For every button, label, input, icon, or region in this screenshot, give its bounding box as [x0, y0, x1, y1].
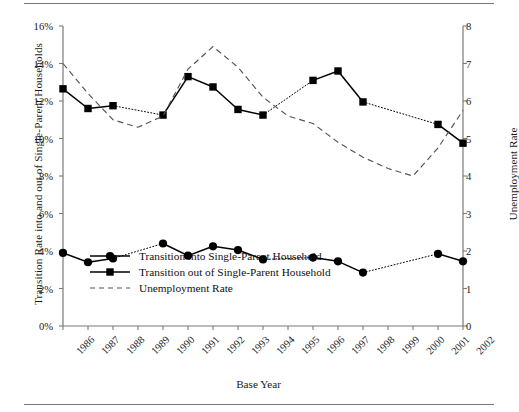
y-axis-left-tick-16%: 16% [34, 21, 53, 32]
top-divider-rule [24, 3, 494, 4]
y-axis-left-tick-14%: 14% [34, 58, 53, 69]
legend-key-dashed-line-icon [88, 280, 132, 296]
y-axis-left-tick-6%: 6% [39, 208, 53, 219]
x-axis-title: Base Year [0, 378, 517, 390]
y-axis-right-tick-0: 0 [466, 321, 471, 332]
legend-item-2[interactable]: Unemployment Rate [88, 280, 331, 296]
legend-label-1: Transition out of Single-Parent Househol… [139, 264, 331, 280]
y-axis-left-tick-2%: 2% [39, 283, 53, 294]
y-axis-left-tick-10%: 10% [34, 133, 53, 144]
legend-item-0[interactable]: Transition into Single-Parent Household [88, 248, 331, 264]
y-axis-left-tick-0%: 0% [39, 321, 53, 332]
y-axis-right-tick-1: 1 [466, 283, 471, 294]
y-axis-left-tick-12%: 12% [34, 96, 53, 107]
chart-legend: Transition into Single-Parent HouseholdT… [88, 248, 331, 296]
y-axis-left-tick-4%: 4% [39, 246, 53, 257]
series-transition-out-of-single-parent-household [59, 67, 466, 147]
y-axis-right-tick-4: 4 [466, 171, 471, 182]
y-axis-left-tick-8%: 8% [39, 171, 53, 182]
series-unemployment-rate [63, 47, 463, 176]
y-axis-right-tick-7: 7 [466, 58, 471, 69]
legend-label-0: Transition into Single-Parent Household [139, 248, 322, 264]
y-axis-right-tick-5: 5 [466, 133, 471, 144]
y-axis-right-tick-6: 6 [466, 96, 471, 107]
legend-key-circle-solid-line-icon [88, 248, 132, 264]
y-axis-right-tick-2: 2 [466, 246, 471, 257]
legend-item-1[interactable]: Transition out of Single-Parent Househol… [88, 264, 331, 280]
y-axis-right-title: Unemployment Rate [507, 24, 519, 324]
bottom-divider-rule [24, 404, 494, 405]
y-axis-left-ticklabels: 0%2%4%6%8%10%12%14%16% [0, 0, 53, 412]
legend-key-square-solid-line-icon [88, 264, 132, 280]
y-axis-right-tick-3: 3 [466, 208, 471, 219]
data-series-group [59, 47, 467, 277]
legend-label-2: Unemployment Rate [139, 280, 233, 296]
y-axis-right-tick-8: 8 [466, 21, 471, 32]
